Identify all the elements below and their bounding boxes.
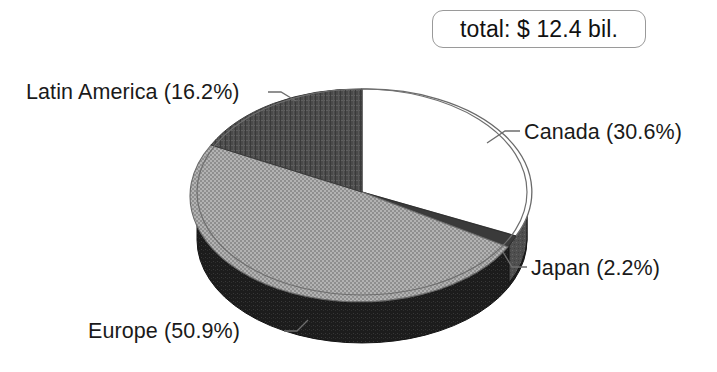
pie-label-europe: Europe (50.9%) <box>88 319 240 344</box>
pie-label-canada: Canada (30.6%) <box>524 120 682 145</box>
pie-label-latin-america: Latin America (16.2%) <box>26 80 240 105</box>
pie-chart-figure: total: $ 12.4 bil. <box>0 0 717 372</box>
pie-label-japan: Japan (2.2%) <box>531 256 660 281</box>
pie-chart-stage: Latin America (16.2%) Canada (30.6%) Jap… <box>0 0 717 372</box>
pie-chart-svg <box>0 0 717 372</box>
